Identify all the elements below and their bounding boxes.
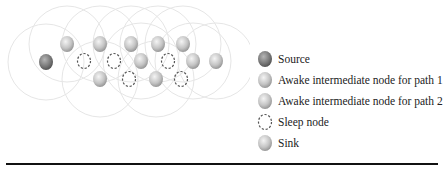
sleep-node [108, 54, 121, 69]
source-node [39, 54, 53, 70]
awake-node-path1-icon [257, 71, 273, 89]
legend-label: Sink [278, 137, 299, 149]
source-node-icon [257, 50, 273, 68]
legend-item-sink: Sink [257, 132, 443, 153]
path1-node [176, 36, 190, 52]
legend-item-source: Source [257, 48, 443, 69]
legend-item-path1: Awake intermediate node for path 1 [257, 69, 443, 90]
path1-node [93, 36, 107, 52]
path2-node [186, 53, 200, 69]
legend-item-path2: Awake intermediate node for path 2 [257, 90, 443, 111]
network-diagram [0, 0, 250, 140]
legend: Source Awake intermediate node for path … [257, 48, 443, 153]
sleep-node [162, 54, 175, 69]
path2-node [149, 71, 163, 87]
path1-node [124, 36, 138, 52]
path2-node [134, 53, 148, 69]
bottom-rule [6, 163, 438, 165]
legend-label: Awake intermediate node for path 2 [278, 95, 443, 107]
legend-label: Awake intermediate node for path 1 [278, 74, 443, 86]
legend-label: Sleep node [278, 116, 329, 128]
awake-node-path2-icon [257, 92, 273, 110]
sink-node [209, 53, 223, 69]
path1-node [151, 36, 165, 52]
legend-item-sleep: Sleep node [257, 111, 443, 132]
path1-node [60, 36, 74, 52]
legend-label: Source [278, 53, 310, 65]
sleep-node [123, 72, 136, 87]
path2-node [93, 71, 107, 87]
sink-node-icon [257, 134, 273, 152]
sleep-node-icon [257, 113, 273, 131]
